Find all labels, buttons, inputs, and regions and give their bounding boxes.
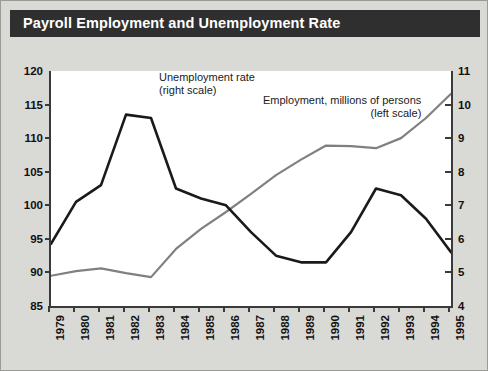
- right-axis-tick-label: 11: [458, 65, 480, 77]
- x-axis-tick-label: 1988: [279, 315, 291, 341]
- x-axis-tick-label: 1989: [304, 315, 316, 341]
- right-axis-tick-label: 9: [458, 132, 480, 144]
- x-axis-tick-label: 1986: [229, 315, 241, 341]
- employment-annotation-line1: Employment, millions of persons: [263, 94, 421, 107]
- chart-figure: Payroll Employment and Unemployment Rate…: [0, 0, 488, 371]
- x-axis-tick-label: 1987: [254, 315, 266, 341]
- title-bar: Payroll Employment and Unemployment Rate: [10, 10, 480, 37]
- unemployment-line: [51, 115, 451, 263]
- unemployment-annotation-line1: Unemployment rate: [159, 71, 255, 84]
- unemployment-annotation-line2: (right scale): [159, 84, 255, 97]
- employment-line: [51, 94, 451, 277]
- x-axis-tick-label: 1985: [204, 315, 216, 341]
- x-axis-tick-label: 1983: [154, 315, 166, 341]
- right-axis-tick-label: 4: [458, 300, 480, 312]
- right-axis-tick-label: 5: [458, 266, 480, 278]
- left-axis-tick-label: 110: [9, 132, 43, 144]
- left-axis-tick-label: 90: [9, 266, 43, 278]
- left-axis-tick-label: 105: [9, 166, 43, 178]
- x-axis-tick-label: 1993: [404, 315, 416, 341]
- right-axis-tick-label: 6: [458, 233, 480, 245]
- x-axis-tick-label: 1982: [129, 315, 141, 341]
- employment-annotation-line2: (left scale): [263, 107, 421, 120]
- x-axis-tick-label: 1980: [79, 315, 91, 341]
- x-axis-tick-label: 1995: [454, 315, 466, 341]
- left-axis-tick-label: 85: [9, 300, 43, 312]
- right-axis-tick-label: 10: [458, 99, 480, 111]
- x-axis-tick-label: 1991: [354, 315, 366, 341]
- unemployment-annotation: Unemployment rate (right scale): [159, 71, 255, 97]
- left-axis-tick-label: 95: [9, 233, 43, 245]
- left-axis-tick-label: 100: [9, 199, 43, 211]
- right-axis-tick-label: 7: [458, 199, 480, 211]
- x-axis-tick-label: 1981: [104, 315, 116, 341]
- x-axis-tick-label: 1979: [54, 315, 66, 341]
- x-axis-tick-label: 1992: [379, 315, 391, 341]
- left-axis-tick-label: 115: [9, 99, 43, 111]
- x-axis-tick-label: 1990: [329, 315, 341, 341]
- x-axis-tick-label: 1994: [429, 315, 441, 341]
- x-axis-tick-label: 1984: [179, 315, 191, 341]
- page-title: Payroll Employment and Unemployment Rate: [23, 15, 340, 31]
- employment-annotation: Employment, millions of persons (left sc…: [263, 94, 421, 120]
- left-axis-tick-label: 120: [9, 65, 43, 77]
- right-axis-tick-label: 8: [458, 166, 480, 178]
